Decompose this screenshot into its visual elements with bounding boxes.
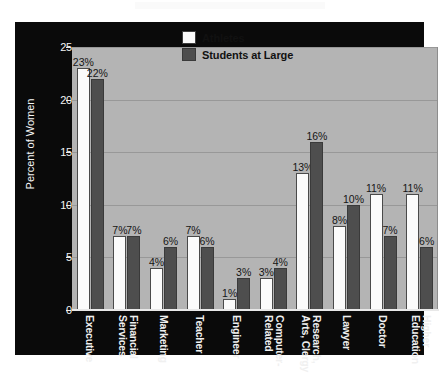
scan-artifact xyxy=(135,2,325,9)
bar: 7% xyxy=(127,236,140,310)
legend-item: Athletes xyxy=(182,30,293,45)
bar-value-label: 7% xyxy=(112,225,127,236)
x-axis-category-label: HigherEducation xyxy=(410,315,432,364)
bar: 7% xyxy=(187,236,200,310)
y-axis-tick: 25 xyxy=(32,47,72,48)
x-axis-category: Doctor xyxy=(365,313,401,377)
bar: 4% xyxy=(150,268,163,310)
bar-value-label: 8% xyxy=(332,215,347,226)
x-axis-category: Computer-Related xyxy=(255,313,291,377)
x-axis-baseline xyxy=(72,309,439,311)
x-axis-category-label: Executive xyxy=(84,315,95,362)
x-axis-category-label: Computer-Related xyxy=(263,315,285,366)
bar: 7% xyxy=(384,236,397,310)
bar: 22% xyxy=(91,79,104,310)
bar-value-label: 22% xyxy=(87,68,108,79)
y-axis-label: Percent of Women xyxy=(24,79,36,209)
y-axis-tick: 10 xyxy=(32,205,72,206)
x-axis-category-label: Lawyer xyxy=(341,315,352,350)
x-axis-category-label: Doctor xyxy=(377,315,388,348)
bar-value-label: 3% xyxy=(259,267,274,278)
bar: 11% xyxy=(370,194,383,310)
bar: 16% xyxy=(310,142,323,310)
bar-value-label: 4% xyxy=(149,257,164,268)
bar: 13% xyxy=(296,173,309,310)
y-axis-tick-label: 0 xyxy=(46,305,72,316)
legend-item: Students at Large xyxy=(182,47,293,62)
bar: 8% xyxy=(333,226,346,310)
chart-legend: Athletes Students at Large xyxy=(178,28,297,66)
y-axis-tick: 0 xyxy=(32,310,72,311)
y-axis-tick: 15 xyxy=(32,152,72,153)
x-axis-category-label: Marketing xyxy=(158,315,169,363)
y-axis-tick: 5 xyxy=(32,257,72,258)
bar-value-label: 11% xyxy=(366,183,386,194)
bar: 6% xyxy=(201,247,214,310)
legend-label: Athletes xyxy=(202,32,245,44)
x-axis-category-label: Engineer xyxy=(231,315,242,358)
x-axis-category: Marketing xyxy=(146,313,182,377)
chart-panel: 0510152025 Percent of Women 23%22%7%7%4%… xyxy=(15,22,424,355)
bar: 3% xyxy=(260,278,273,310)
x-axis-category: Executive xyxy=(72,313,108,377)
x-axis-category: Teacher xyxy=(182,313,218,377)
y-axis-tick-label: 20 xyxy=(46,94,72,105)
x-axis-category: Engineer xyxy=(219,313,255,377)
bar-value-label: 1% xyxy=(222,288,237,299)
bar: 11% xyxy=(406,194,419,310)
x-axis-category: FinancialServices xyxy=(109,313,145,377)
legend-swatch-students-icon xyxy=(182,48,196,61)
gridline xyxy=(72,152,437,153)
bar-value-label: 6% xyxy=(419,236,434,247)
bar-value-label: 10% xyxy=(343,194,364,205)
bar-value-label: 4% xyxy=(273,257,288,268)
x-axis-category: HigherEducation xyxy=(402,313,438,377)
x-axis-category-label: FinancialServices xyxy=(117,315,139,359)
y-axis-tick-label: 25 xyxy=(46,42,72,53)
gridline xyxy=(72,100,437,101)
bar-value-label: 7% xyxy=(126,225,141,236)
bar-value-label: 11% xyxy=(403,183,423,194)
bar-value-label: 6% xyxy=(163,236,178,247)
bar: 4% xyxy=(274,268,287,310)
bar: 6% xyxy=(420,247,433,310)
y-axis-tick: 20 xyxy=(32,100,72,101)
bar: 23% xyxy=(77,68,90,310)
x-axis-category: Lawyer xyxy=(329,313,365,377)
y-axis-tick-label: 15 xyxy=(46,147,72,158)
y-axis-tick-label: 10 xyxy=(46,199,72,210)
bar: 7% xyxy=(113,236,126,310)
y-axis-tick-label: 5 xyxy=(46,252,72,263)
bar: 6% xyxy=(164,247,177,310)
bar-value-label: 7% xyxy=(383,225,398,236)
bar-value-label: 16% xyxy=(306,131,327,142)
bar-value-label: 6% xyxy=(200,236,215,247)
legend-label: Students at Large xyxy=(202,49,293,61)
bar-value-label: 3% xyxy=(236,267,251,278)
x-axis-category: Research,Arts, Clergy xyxy=(292,313,328,377)
legend-swatch-athletes-icon xyxy=(182,31,196,44)
x-axis-category-label: Teacher xyxy=(194,315,205,353)
bar: 10% xyxy=(347,205,360,310)
x-axis-category-label: Research,Arts, Clergy xyxy=(300,315,322,372)
plot-area: 23%22%7%7%4%6%7%6%1%3%3%4%13%16%8%10%11%… xyxy=(72,47,438,310)
bar: 3% xyxy=(237,278,250,310)
bar-value-label: 7% xyxy=(186,225,201,236)
